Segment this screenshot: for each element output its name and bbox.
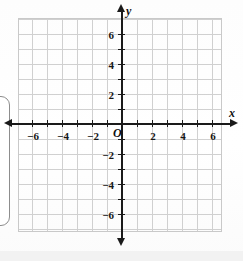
x-tick-label: 6	[210, 131, 216, 142]
x-tick-mark	[182, 120, 183, 127]
y-tick-mark	[118, 199, 125, 200]
y-tick-label: −2	[88, 150, 114, 161]
y-tick-mark	[118, 214, 125, 215]
y-tick-mark	[118, 184, 125, 185]
worksheet-page: −6−4−2246 642−2−4−6 O x y	[0, 0, 243, 261]
x-tick-mark	[107, 120, 108, 127]
y-tick-label: 2	[88, 90, 114, 101]
x-tick-mark	[47, 120, 48, 127]
page-bottom-band	[0, 251, 243, 261]
x-axis-right-arrow-icon	[230, 119, 238, 127]
x-tick-mark	[32, 120, 33, 127]
y-tick-mark	[118, 64, 125, 65]
y-axis-down-arrow-icon	[117, 238, 125, 246]
x-tick-label: −4	[57, 131, 69, 142]
answer-callout-box	[0, 96, 10, 226]
x-tick-mark	[167, 120, 168, 127]
y-tick-mark	[118, 154, 125, 155]
y-tick-mark	[118, 109, 125, 110]
x-tick-label: −2	[87, 131, 99, 142]
y-axis-line	[121, 10, 123, 240]
x-axis-left-arrow-icon	[4, 119, 12, 127]
y-tick-mark	[118, 79, 125, 80]
x-tick-label: 2	[150, 131, 156, 142]
x-tick-mark	[77, 120, 78, 127]
x-tick-mark	[137, 120, 138, 127]
y-tick-label: 4	[88, 60, 114, 71]
origin-label: O	[113, 127, 122, 139]
y-tick-mark	[118, 94, 125, 95]
y-tick-label: −4	[88, 180, 114, 191]
y-tick-label: 6	[88, 30, 114, 41]
x-tick-mark	[152, 120, 153, 127]
x-axis-label: x	[229, 107, 235, 119]
y-tick-label: −6	[88, 210, 114, 221]
y-tick-mark	[118, 169, 125, 170]
y-axis-up-arrow-icon	[117, 4, 125, 12]
x-tick-mark	[197, 120, 198, 127]
y-tick-mark	[118, 49, 125, 50]
x-tick-mark	[62, 120, 63, 127]
y-tick-mark	[118, 34, 125, 35]
x-tick-mark	[212, 120, 213, 127]
x-tick-label: −6	[27, 131, 39, 142]
x-tick-label: 4	[180, 131, 186, 142]
y-axis-label: y	[126, 5, 131, 17]
x-tick-mark	[92, 120, 93, 127]
